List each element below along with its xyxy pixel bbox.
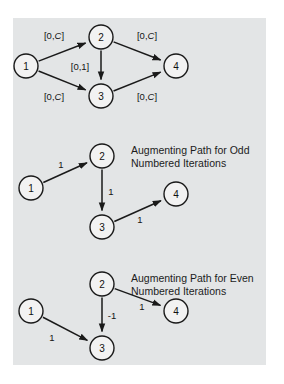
node-capacity-network-1: 1	[14, 54, 38, 78]
edge-label-e23: [0,1]	[71, 61, 90, 72]
node-label-2: 2	[99, 279, 105, 290]
node-label-3: 3	[99, 222, 105, 233]
node-label-4: 4	[173, 306, 179, 317]
node-even-iteration-path-3: 3	[90, 336, 114, 360]
network-flow-figure: [0,C][0,C][0,1][0,C][0,C]12341111234Augm…	[0, 0, 284, 384]
edge-label-e12: 1	[58, 159, 63, 170]
node-label-2: 2	[98, 32, 104, 43]
caption-line: Augmenting Path for Even	[131, 272, 254, 284]
node-label-4: 4	[173, 189, 179, 200]
edge-label-e34: 1	[137, 214, 142, 225]
node-odd-iteration-path-1: 1	[19, 176, 43, 200]
caption-line: Augmenting Path for Odd	[131, 144, 250, 156]
edge-label-e34: [0,C]	[137, 91, 157, 102]
node-odd-iteration-path-3: 3	[90, 215, 114, 239]
node-odd-iteration-path-2: 2	[90, 144, 114, 168]
node-label-1: 1	[28, 306, 34, 317]
caption-line: Numbered Iterations	[131, 285, 226, 297]
figure-root: [0,C][0,C][0,1][0,C][0,C]12341111234Augm…	[0, 0, 284, 384]
edge-label-e13: [0,C]	[44, 91, 64, 102]
node-label-3: 3	[98, 91, 104, 102]
node-odd-iteration-path-4: 4	[164, 182, 188, 206]
node-label-1: 1	[23, 61, 29, 72]
edge-label-e24: [0,C]	[137, 30, 157, 41]
edge-label-e23: 1	[108, 186, 113, 197]
node-label-4: 4	[173, 61, 179, 72]
caption-line: Numbered Iterations	[131, 157, 226, 169]
edge-label-e12: [0,C]	[44, 30, 64, 41]
edge-label-e24: 1	[139, 301, 144, 312]
figure-panel-background	[13, 18, 266, 365]
node-label-2: 2	[99, 151, 105, 162]
node-capacity-network-4: 4	[164, 54, 188, 78]
node-even-iteration-path-4: 4	[164, 299, 188, 323]
node-label-1: 1	[28, 183, 34, 194]
node-label-3: 3	[99, 343, 105, 354]
node-even-iteration-path-2: 2	[90, 272, 114, 296]
edge-label-e23: -1	[108, 310, 116, 321]
node-capacity-network-3: 3	[89, 84, 113, 108]
edge-label-e13: 1	[49, 332, 54, 343]
node-even-iteration-path-1: 1	[19, 299, 43, 323]
node-capacity-network-2: 2	[89, 25, 113, 49]
